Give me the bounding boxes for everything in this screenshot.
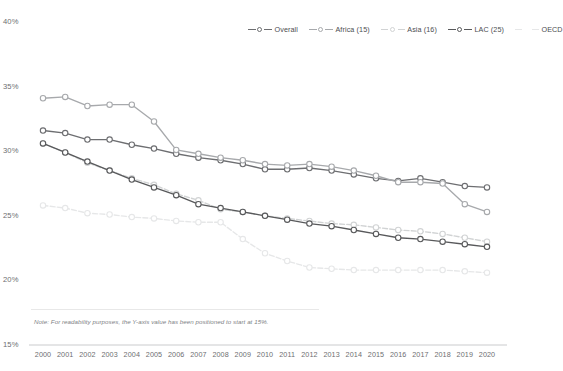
data-point: [396, 180, 401, 185]
data-point: [285, 163, 290, 168]
data-point: [129, 214, 134, 219]
data-point: [62, 150, 67, 155]
data-point: [129, 177, 134, 182]
chart-note: Note: For readability purposes, the Y-ax…: [34, 318, 268, 325]
data-point: [85, 211, 90, 216]
data-point: [107, 212, 112, 217]
data-point: [262, 167, 267, 172]
data-point: [62, 205, 67, 210]
data-point: [129, 142, 134, 147]
legend-label: OECD: [541, 25, 562, 34]
data-point: [351, 267, 356, 272]
data-point: [484, 209, 489, 214]
data-point: [262, 251, 267, 256]
data-point: [240, 158, 245, 163]
data-point: [151, 119, 156, 124]
data-point: [418, 267, 423, 272]
data-point: [85, 103, 90, 108]
data-point: [329, 266, 334, 271]
x-axis-tick-2020: 2020: [474, 350, 500, 359]
data-point: [107, 102, 112, 107]
data-point: [484, 270, 489, 275]
data-point: [396, 235, 401, 240]
data-point: [307, 161, 312, 166]
data-point: [196, 201, 201, 206]
data-point: [484, 244, 489, 249]
data-point: [262, 161, 267, 166]
data-point: [396, 227, 401, 232]
data-point: [40, 203, 45, 208]
data-point: [440, 231, 445, 236]
data-point: [373, 267, 378, 272]
data-point: [484, 185, 489, 190]
data-point: [62, 130, 67, 135]
data-point: [484, 239, 489, 244]
data-point: [40, 96, 45, 101]
data-point: [418, 236, 423, 241]
data-point: [129, 102, 134, 107]
data-point: [218, 205, 223, 210]
data-point: [462, 242, 467, 247]
data-point: [262, 213, 267, 218]
y-axis-tick-15: 15%: [3, 340, 19, 349]
data-point: [285, 258, 290, 263]
data-point: [373, 231, 378, 236]
data-point: [107, 137, 112, 142]
y-axis-tick-20: 20%: [3, 275, 19, 284]
data-point: [351, 222, 356, 227]
data-point: [151, 146, 156, 151]
data-point: [440, 181, 445, 186]
series-line-africa-15: [43, 97, 487, 212]
data-point: [440, 239, 445, 244]
y-axis-tick-30: 30%: [3, 146, 19, 155]
data-point: [329, 164, 334, 169]
data-point: [462, 269, 467, 274]
y-axis-tick-40: 40%: [3, 17, 19, 26]
data-point: [351, 227, 356, 232]
data-point: [174, 192, 179, 197]
data-point: [462, 183, 467, 188]
data-point: [373, 173, 378, 178]
data-point: [151, 216, 156, 221]
series-line-asia-16: [43, 143, 487, 241]
data-point: [329, 223, 334, 228]
data-point: [218, 220, 223, 225]
data-point: [196, 220, 201, 225]
data-point: [85, 159, 90, 164]
data-point: [174, 218, 179, 223]
y-axis-tick-25: 25%: [3, 211, 19, 220]
data-point: [107, 168, 112, 173]
data-point: [40, 141, 45, 146]
data-point: [196, 151, 201, 156]
data-point: [373, 225, 378, 230]
data-point: [440, 267, 445, 272]
data-point: [418, 180, 423, 185]
data-point: [240, 236, 245, 241]
data-point: [307, 221, 312, 226]
data-point: [151, 185, 156, 190]
data-point: [462, 235, 467, 240]
data-point: [396, 267, 401, 272]
data-point: [285, 217, 290, 222]
data-point: [307, 265, 312, 270]
data-point: [174, 147, 179, 152]
data-point: [418, 229, 423, 234]
data-point: [351, 168, 356, 173]
data-point: [462, 201, 467, 206]
note-divider: [31, 309, 319, 310]
data-point: [85, 137, 90, 142]
data-point: [218, 155, 223, 160]
y-axis-tick-35: 35%: [3, 82, 19, 91]
data-point: [62, 94, 67, 99]
data-point: [40, 128, 45, 133]
data-point: [240, 209, 245, 214]
